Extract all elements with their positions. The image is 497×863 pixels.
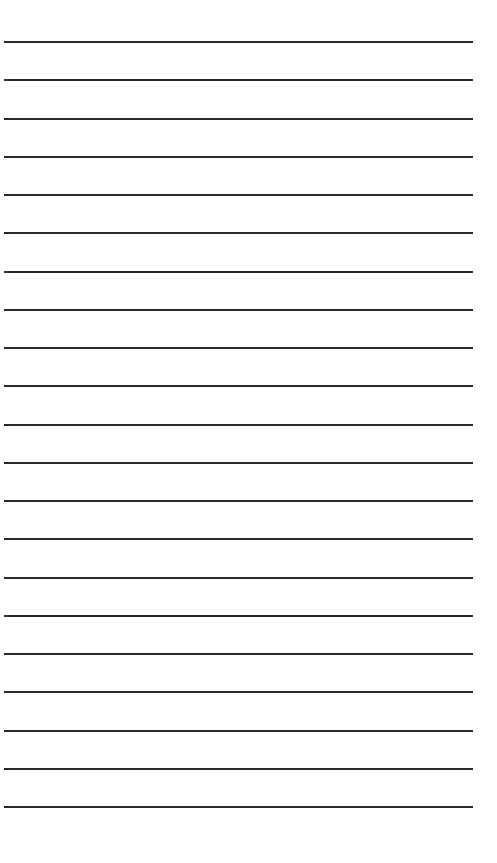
ruled-line <box>4 500 473 502</box>
ruled-line <box>4 385 473 387</box>
ruled-line <box>4 424 473 426</box>
ruled-line <box>4 462 473 464</box>
ruled-line <box>4 232 473 234</box>
ruled-line <box>4 194 473 196</box>
ruled-line <box>4 309 473 311</box>
ruled-line <box>4 577 473 579</box>
ruled-line <box>4 271 473 273</box>
ruled-line <box>4 806 473 808</box>
ruled-line <box>4 156 473 158</box>
ruled-line <box>4 768 473 770</box>
lined-paper <box>0 0 497 863</box>
ruled-line <box>4 538 473 540</box>
ruled-line <box>4 615 473 617</box>
ruled-line <box>4 653 473 655</box>
ruled-line <box>4 730 473 732</box>
ruled-line <box>4 41 473 43</box>
ruled-line <box>4 347 473 349</box>
ruled-line <box>4 691 473 693</box>
ruled-line <box>4 79 473 81</box>
ruled-line <box>4 118 473 120</box>
